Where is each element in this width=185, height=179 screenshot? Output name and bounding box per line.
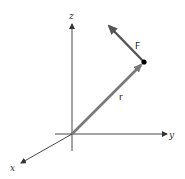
vector-F-label: F [135, 41, 140, 51]
vector-r-label: r [119, 92, 123, 102]
x-axis-label: x [10, 163, 15, 173]
x-axis: x [10, 134, 72, 173]
vector-diagram: z y x r F [0, 0, 185, 179]
vector-F: F [109, 26, 144, 62]
vector-r: r [72, 65, 141, 134]
z-axis-label: z [68, 11, 74, 21]
y-axis-label: y [168, 130, 175, 140]
application-point [141, 59, 146, 64]
z-axis: z [68, 11, 74, 151]
